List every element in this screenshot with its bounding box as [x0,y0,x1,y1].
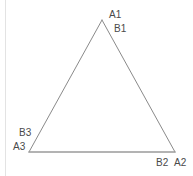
vertex-label-b1: B1 [114,23,127,34]
vertex-label-a3: A3 [13,141,26,152]
triangle-figure [0,0,193,176]
diagram-canvas: A1 B1 B3 A3 B2 A2 [0,0,193,176]
vertex-label-a1: A1 [109,9,122,20]
vertex-label-a2: A2 [174,157,187,168]
triangle-side-left [29,20,102,152]
triangle-side-right [102,20,175,152]
vertex-label-b3: B3 [19,127,32,138]
vertex-label-b2: B2 [156,157,169,168]
